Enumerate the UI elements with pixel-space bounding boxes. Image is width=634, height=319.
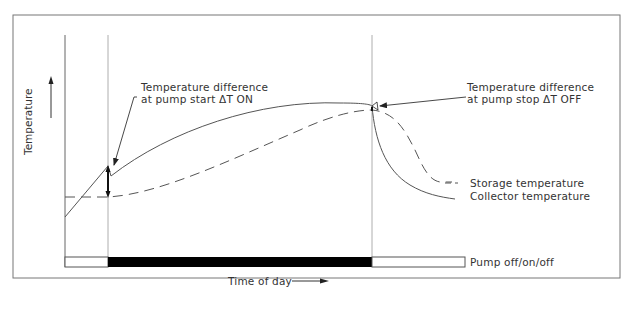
legend-collector-temperature: Collector temperature	[470, 190, 590, 202]
y-axis-label: Temperature	[22, 88, 34, 155]
legend-storage-temperature: Storage temperature	[470, 177, 584, 189]
pump-bar-on	[108, 257, 372, 267]
legend-pump: Pump off/on/off	[470, 256, 554, 268]
stop-annotation-line2: at pump stop ΔT OFF	[467, 93, 582, 105]
collector-temperature-curve	[65, 103, 455, 217]
stop-annotation-leader	[380, 97, 466, 106]
storage-temperature-curve	[65, 110, 452, 197]
start-annotation-leader	[114, 97, 137, 165]
diagram-canvas	[0, 0, 634, 319]
pump-bar-off-2	[372, 257, 465, 267]
pump-bar-off-1	[65, 257, 108, 267]
outer-frame	[13, 15, 620, 278]
start-annotation-line1: Temperature difference	[141, 81, 268, 93]
start-annotation-line2: at pump start ΔT ON	[141, 93, 253, 105]
stop-annotation-line1: Temperature difference	[467, 81, 594, 93]
x-axis-label: Time of day	[228, 275, 292, 287]
